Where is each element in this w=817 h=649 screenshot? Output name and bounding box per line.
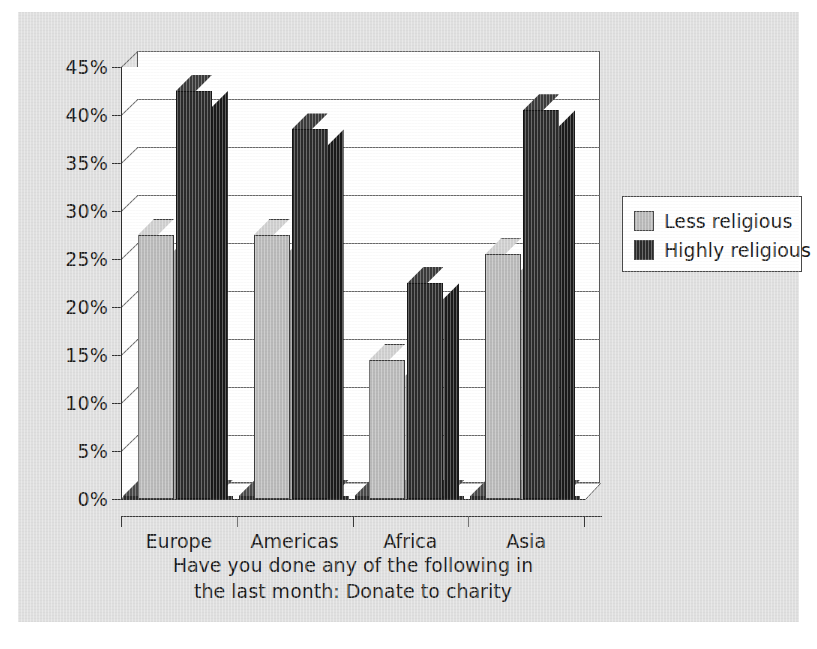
x-label-africa: Africa [383, 530, 437, 552]
y-tick-label: 20% [65, 296, 108, 318]
chart-title: Have you done any of the following in th… [121, 552, 585, 604]
bar-front-face [138, 235, 174, 499]
bar-europe-less-religious [138, 235, 174, 499]
x-tick [121, 516, 122, 527]
y-tick [112, 211, 121, 212]
y-tick [112, 355, 121, 356]
legend-label-highly-religious: Highly religious [664, 239, 811, 261]
bar-front-face [407, 283, 443, 499]
x-tick [584, 516, 585, 527]
gridline [137, 51, 600, 52]
y-tick-label: 0% [77, 488, 108, 510]
bar-front-face [292, 129, 328, 499]
legend-item-highly-religious: Highly religious [634, 235, 801, 264]
y-tick [112, 67, 121, 68]
x-label-americas: Americas [250, 530, 338, 552]
x-label-asia: Asia [506, 530, 546, 552]
chart-panel: 0%5%10%15%20%25%30%35%40%45% EuropeAmeri… [18, 12, 799, 622]
bar-front-face [485, 254, 521, 499]
bar-europe-highly-religious [176, 91, 212, 499]
x-axis-line [121, 516, 602, 517]
y-tick [112, 403, 121, 404]
gridline-connector [121, 51, 138, 68]
y-tick-label: 5% [77, 440, 108, 462]
x-tick [237, 516, 238, 527]
bar-africa-highly-religious [407, 283, 443, 499]
y-tick [112, 259, 121, 260]
y-tick-label: 25% [65, 248, 108, 270]
x-axis: EuropeAmericasAfricaAsia [121, 499, 602, 559]
plot-area: 0%5%10%15%20%25%30%35%40%45% [121, 67, 584, 499]
x-tick [353, 516, 354, 527]
bar-side-face [443, 283, 459, 499]
legend-item-less-religious: Less religious [634, 206, 801, 235]
legend-swatch-highly-religious [634, 240, 654, 260]
y-tick-label: 40% [65, 104, 108, 126]
bar-front-face [254, 235, 290, 499]
bar-africa-less-religious [369, 360, 405, 499]
bar-asia-less-religious [485, 254, 521, 499]
bar-front-face [176, 91, 212, 499]
bar-americas-highly-religious [292, 129, 328, 499]
plot-side-wall [121, 67, 138, 500]
bar-asia-highly-religious [523, 110, 559, 499]
y-tick-label: 15% [65, 344, 108, 366]
bar-front-face [369, 360, 405, 499]
x-tick [468, 516, 469, 527]
legend-swatch-less-religious [634, 211, 654, 231]
chart-title-line-1: Have you done any of the following in [121, 552, 585, 578]
page-root: 0%5%10%15%20%25%30%35%40%45% EuropeAmeri… [0, 0, 817, 649]
legend: Less religious Highly religious [622, 196, 802, 272]
legend-label-less-religious: Less religious [664, 210, 792, 232]
bar-americas-less-religious [254, 235, 290, 499]
y-tick-label: 30% [65, 200, 108, 222]
y-tick-label: 45% [65, 56, 108, 78]
y-tick [112, 115, 121, 116]
y-tick [112, 499, 121, 500]
y-axis-line [121, 67, 122, 500]
chart-title-line-2: the last month: Donate to charity [121, 578, 585, 604]
y-tick [112, 163, 121, 164]
y-tick-label: 35% [65, 152, 108, 174]
bar-front-face [523, 110, 559, 499]
bar-side-face [328, 129, 344, 499]
y-tick [112, 307, 121, 308]
y-tick [112, 451, 121, 452]
bar-side-face [212, 91, 228, 499]
y-tick-label: 10% [65, 392, 108, 414]
x-label-europe: Europe [145, 530, 212, 552]
bar-side-face [559, 110, 575, 499]
